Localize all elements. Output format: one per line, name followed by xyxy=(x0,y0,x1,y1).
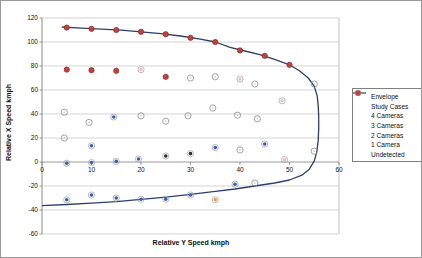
x-tick-label: 60 xyxy=(335,166,343,173)
legend-label: 3 Cameras xyxy=(371,122,403,129)
study-case-center xyxy=(239,149,241,151)
undetected-marker xyxy=(163,32,168,37)
study-case-center xyxy=(190,77,192,79)
legend-item-envelope: Envelope xyxy=(353,92,421,102)
undetected-marker xyxy=(89,68,94,73)
camera-count-dot xyxy=(65,198,69,202)
study-case-center xyxy=(254,83,256,85)
camera-count-dot xyxy=(213,198,217,202)
camera-count-dot xyxy=(189,193,193,197)
legend-item-4-cameras: 4 Cameras xyxy=(353,111,421,121)
camera-count-dot xyxy=(90,193,94,197)
legend-label: Undetected xyxy=(371,151,405,158)
undetected-marker xyxy=(213,39,218,44)
chart-window: -60-40-200204060801001200102030405060 Re… xyxy=(0,0,422,258)
undetected-marker xyxy=(163,74,168,79)
y-tick-label: 100 xyxy=(27,38,38,45)
y-axis-title: Relative X Speed kmph xyxy=(5,53,12,193)
camera-count-dot xyxy=(283,158,287,162)
x-tick-label: 30 xyxy=(187,166,195,173)
camera-count-dot xyxy=(114,160,118,164)
y-tick-label: -20 xyxy=(29,182,39,189)
legend-label: 4 Cameras xyxy=(371,112,403,119)
legend-label: 1 Camera xyxy=(371,141,400,148)
camera-count-dot xyxy=(164,197,168,201)
camera-count-dot xyxy=(263,142,267,146)
x-tick-label: 20 xyxy=(137,166,145,173)
legend-item-2-cameras: 2 Cameras xyxy=(353,130,421,140)
y-tick-label: -60 xyxy=(29,230,39,237)
y-tick-label: 80 xyxy=(31,62,39,69)
y-tick-label: 40 xyxy=(31,110,39,117)
x-axis-title: Relative Y Speed kmph xyxy=(91,239,291,246)
y-tick-label: 120 xyxy=(27,14,38,21)
undetected-marker xyxy=(64,67,69,72)
camera-count-dot xyxy=(280,99,284,103)
study-case-center xyxy=(63,137,65,139)
camera-count-dot xyxy=(164,154,168,158)
x-tick-label: 50 xyxy=(286,166,294,173)
x-tick-label: 10 xyxy=(88,166,96,173)
undetected-marker xyxy=(188,35,193,40)
undetected-marker xyxy=(138,29,143,34)
undetected-marker xyxy=(287,62,292,67)
study-case-center xyxy=(237,114,239,116)
camera-count-dot xyxy=(137,157,141,161)
undetected-marker xyxy=(237,48,242,53)
study-case-center xyxy=(257,118,259,120)
y-tick-label: -40 xyxy=(29,206,39,213)
x-tick-label: 0 xyxy=(40,166,44,173)
study-case-center xyxy=(187,115,189,117)
camera-count-dot xyxy=(90,161,94,165)
legend-item-undetected: Undetected xyxy=(353,150,421,160)
study-case-center xyxy=(313,83,315,85)
legend: Envelope Study Cases 4 Cameras 3 Cameras… xyxy=(352,88,422,162)
undetected-marker xyxy=(114,27,119,32)
camera-count-dot xyxy=(90,144,94,148)
legend-item-study-cases: Study Cases xyxy=(353,102,421,112)
camera-count-dot xyxy=(139,68,143,72)
x-tick-label: 40 xyxy=(236,166,244,173)
study-case-center xyxy=(140,115,142,117)
study-case-center xyxy=(214,76,216,78)
camera-count-dot xyxy=(139,197,143,201)
undetected-marker xyxy=(89,26,94,31)
undetected-marker xyxy=(114,68,119,73)
study-case-center xyxy=(165,120,167,122)
study-case-center xyxy=(212,107,214,109)
undetected-marker xyxy=(64,25,69,30)
study-case-center xyxy=(88,122,90,124)
camera-count-dot xyxy=(114,196,118,200)
legend-item-3-cameras: 3 Cameras xyxy=(353,121,421,131)
camera-count-dot xyxy=(238,77,242,81)
camera-count-dot xyxy=(233,182,237,186)
envelope-line xyxy=(42,27,319,206)
y-tick-label: 0 xyxy=(34,158,38,165)
study-case-center xyxy=(313,150,315,152)
camera-count-dot xyxy=(189,152,193,156)
y-tick-label: 60 xyxy=(31,86,39,93)
camera-count-dot xyxy=(112,115,116,119)
y-tick-label: 20 xyxy=(31,134,39,141)
legend-item-1-camera: 1 Camera xyxy=(353,140,421,150)
legend-label: 2 Cameras xyxy=(371,132,403,139)
legend-label: Envelope xyxy=(371,93,399,100)
study-case-center xyxy=(63,111,65,113)
camera-count-dot xyxy=(213,146,217,150)
study-case-center xyxy=(254,182,256,184)
undetected-marker xyxy=(262,53,267,58)
legend-label: Study Cases xyxy=(371,103,408,110)
camera-count-dot xyxy=(65,161,69,165)
